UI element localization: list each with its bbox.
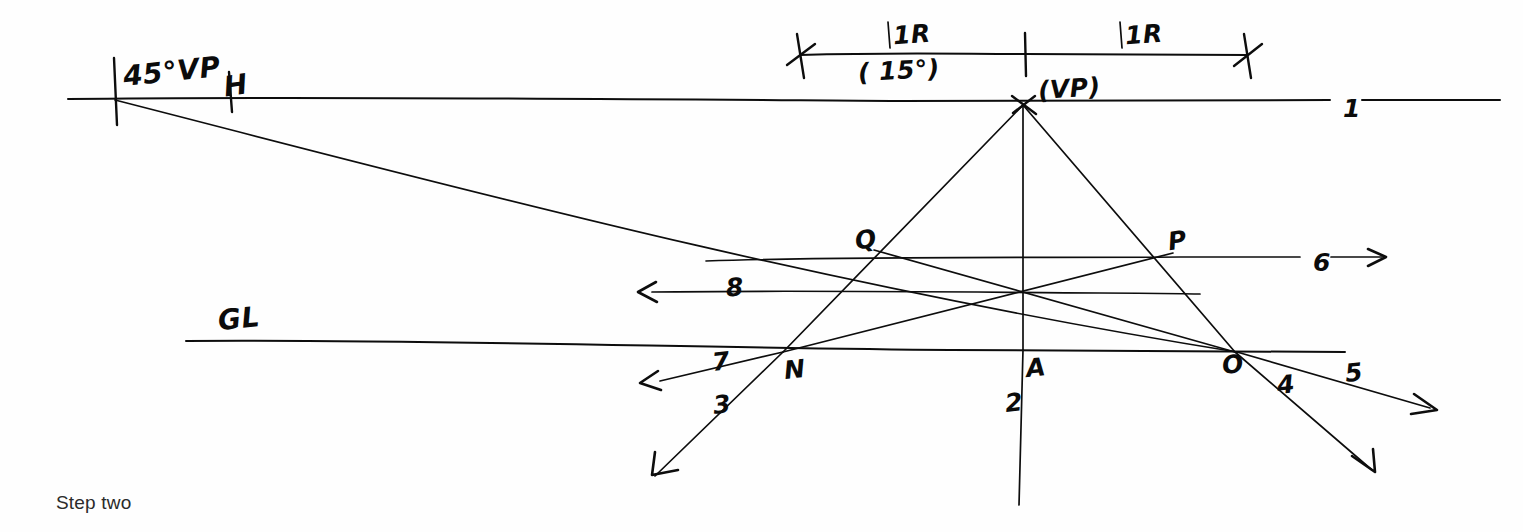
diagram-label-vp_main: (VP) (1037, 74, 1101, 103)
diagram-label-horizon_num: 1 (1343, 96, 1361, 121)
ground-line-GL (186, 341, 1345, 352)
ray-vp-to-N-extended (655, 105, 1023, 476)
diagram-label-line_4: 4 (1276, 371, 1296, 398)
measurement-line (800, 53, 1248, 55)
diagram-label-point_p: P (1166, 227, 1188, 254)
diagram-label-horizon_h: H (222, 70, 250, 101)
diagram-label-point_q: Q (853, 226, 878, 254)
diagram-label-line_7: 7 (711, 348, 731, 375)
ray-vp-to-O-extended (1023, 105, 1372, 470)
diagonal-45vp-to-O (115, 100, 1237, 352)
diagram-label-line_6: 6 (1313, 250, 1331, 275)
diagram-label-line_5: 5 (1344, 359, 1364, 386)
vp45-vertical-tick (114, 58, 117, 125)
unit-tick-right (1120, 22, 1122, 48)
line-4-arrowhead (1352, 449, 1375, 472)
ink-stroke-layer (68, 22, 1500, 505)
diagram-label-point_a: A (1025, 354, 1047, 381)
horizon-line (68, 98, 1330, 102)
diagram-label-point_o: O (1221, 351, 1245, 378)
diagram-label-line_2: 2 (1004, 389, 1024, 416)
measure-tick-middle (1025, 33, 1026, 76)
diagram-label-line_8: 8 (725, 274, 745, 300)
diagonal-from-N-through-center-to-P (783, 253, 1173, 352)
horizontal-line-6-through-QP (706, 257, 1300, 261)
drawing-sheet: 45°VPH1R( 15°)1R(VP)1QP68GL7NAO4532 Step… (0, 0, 1523, 532)
diagonal-from-Q-through-center-to-O (874, 250, 1235, 352)
diagram-label-line_3: 3 (712, 391, 732, 418)
line-3-arrowhead (652, 452, 678, 475)
figure-caption: Step two (56, 492, 132, 514)
vertical-line-2-below-A (1019, 350, 1023, 505)
diagram-label-measure_1r_left: 1R (892, 21, 931, 49)
line-7-arrowhead (640, 371, 661, 390)
diagram-label-measure_15deg: ( 15°) (857, 56, 940, 85)
diagram-label-measure_1r_right: 1R (1124, 21, 1163, 49)
unit-tick-left (888, 22, 890, 48)
diagram-label-point_n: N (783, 356, 807, 383)
line-5-arrow-shaft (1237, 352, 1430, 408)
diagram-label-ground_line_gl: GL (217, 303, 262, 335)
